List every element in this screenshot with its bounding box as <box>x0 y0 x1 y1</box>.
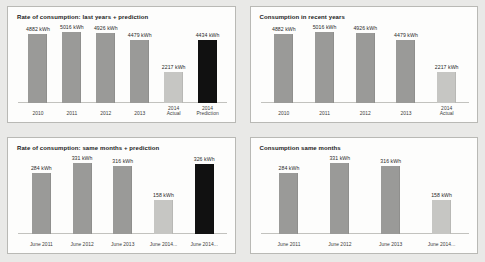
bar-category-label: 2013 <box>386 111 427 117</box>
bar <box>432 200 451 234</box>
bar <box>28 34 47 103</box>
bar-column: 2217 kWh2014 Actual <box>426 23 467 118</box>
bar-column: 4926 kWh2012 <box>89 23 123 118</box>
bar <box>113 166 132 234</box>
bar-value-label: 158 kWh <box>431 193 452 198</box>
bar-column: 4882 kWh2010 <box>21 23 55 118</box>
chart-panel-consumption-same-months: Consumption same months 284 kWhJune 2011… <box>250 137 479 254</box>
bar-category-label: 2014 Prediction <box>191 106 225 117</box>
chart-panel-rate-consumption-same-months: Rate of consumption: same months + predi… <box>7 137 236 254</box>
bar-category-label: 2012 <box>345 111 386 117</box>
bar-column: 284 kWhJune 2011 <box>264 154 315 249</box>
bar-value-label: 284 kWh <box>279 166 300 171</box>
bar <box>164 72 183 103</box>
bar-column: 2217 kWh2014 Actual <box>157 23 191 118</box>
bar <box>396 40 415 103</box>
bar-category-label: 2011 <box>304 111 345 117</box>
bar-category-label: 2010 <box>21 111 55 117</box>
chart-panel-consumption-recent-years: Consumption in recent years 4882 kWh2010… <box>250 6 479 123</box>
chart-panel-slot-1: Rate of consumption: last years + predic… <box>0 0 243 131</box>
bar-value-label: 2217 kWh <box>162 65 186 70</box>
chart-panel-slot-3: Rate of consumption: same months + predi… <box>0 131 243 262</box>
bar-category-label: June 2011 <box>21 242 62 248</box>
chart-plot-area: 4882 kWh20105016 kWh20114926 kWh20124479… <box>258 23 472 118</box>
bar-value-label: 4479 kWh <box>394 33 418 38</box>
bar-value-label: 331 kWh <box>72 156 93 161</box>
bar-column: 331 kWhJune 2012 <box>62 154 103 249</box>
bar-column: 4479 kWh2013 <box>386 23 427 118</box>
chart-plot-area: 284 kWhJune 2011331 kWhJune 2012316 kWhJ… <box>258 154 472 249</box>
bar-value-label: 5016 kWh <box>313 25 337 30</box>
bar <box>195 164 214 234</box>
bar <box>279 173 298 234</box>
bar-value-label: 4882 kWh <box>272 27 296 32</box>
bar <box>330 163 349 234</box>
bar-value-label: 331 kWh <box>329 156 350 161</box>
bar <box>32 173 51 234</box>
bar-value-label: 158 kWh <box>153 193 174 198</box>
bar <box>130 40 149 103</box>
bar-column: 331 kWhJune 2012 <box>314 154 365 249</box>
bar-category-label: 2012 <box>89 111 123 117</box>
bar-category-label: 2013 <box>123 111 157 117</box>
bar-category-label: June 2012 <box>314 242 365 248</box>
bar-column: 4926 kWh2012 <box>345 23 386 118</box>
bar-column: 5016 kWh2011 <box>304 23 345 118</box>
bar-column: 4479 kWh2013 <box>123 23 157 118</box>
chart-panel-slot-2: Consumption in recent years 4882 kWh2010… <box>243 0 485 131</box>
bar-value-label: 4434 kWh <box>196 33 220 38</box>
bar-category-label: June 2014... <box>416 242 467 248</box>
bar-value-label: 4926 kWh <box>94 26 118 31</box>
bar <box>73 163 92 234</box>
bar-category-label: 2014 Actual <box>426 106 467 117</box>
charts-grid: Rate of consumption: last years + predic… <box>0 0 485 262</box>
bar <box>437 72 456 103</box>
bar-value-label: 2217 kWh <box>435 65 459 70</box>
chart-plot-area: 284 kWhJune 2011331 kWhJune 2012316 kWhJ… <box>15 154 229 249</box>
bar <box>356 33 375 103</box>
chart-plot-area: 4882 kWh20105016 kWh20114926 kWh20124479… <box>15 23 229 118</box>
bar-category-label: June 2014... <box>143 242 184 248</box>
bar <box>274 34 293 103</box>
bar-value-label: 4926 kWh <box>353 26 377 31</box>
bar-category-label: 2011 <box>55 111 89 117</box>
bar-column: 4882 kWh2010 <box>264 23 305 118</box>
chart-title: Rate of consumption: same months + predi… <box>17 145 229 152</box>
bar-column: 5016 kWh2011 <box>55 23 89 118</box>
bar-category-label: June 2012 <box>62 242 103 248</box>
bar <box>315 32 334 103</box>
bar <box>96 33 115 103</box>
bar-column: 4434 kWh2014 Prediction <box>191 23 225 118</box>
bar-category-label: June 2013 <box>365 242 416 248</box>
bar-category-label: 2010 <box>264 111 305 117</box>
bar-column: 158 kWhJune 2014... <box>416 154 467 249</box>
chart-title: Consumption same months <box>260 145 472 152</box>
bar-category-label: June 2013 <box>102 242 143 248</box>
bar <box>154 200 173 234</box>
bar <box>62 32 81 103</box>
chart-title: Consumption in recent years <box>260 14 472 21</box>
bar-value-label: 316 kWh <box>380 159 401 164</box>
bar-value-label: 4882 kWh <box>26 27 50 32</box>
bar-value-label: 316 kWh <box>112 159 133 164</box>
bar-value-label: 4479 kWh <box>128 33 152 38</box>
bar <box>381 166 400 234</box>
chart-panel-rate-consumption-last-years: Rate of consumption: last years + predic… <box>7 6 236 123</box>
bar-category-label: June 2014... <box>184 242 225 248</box>
chart-panel-slot-4: Consumption same months 284 kWhJune 2011… <box>243 131 485 262</box>
bar <box>198 40 217 103</box>
bar-category-label: June 2011 <box>264 242 315 248</box>
chart-title: Rate of consumption: last years + predic… <box>17 14 229 21</box>
bar-value-label: 5016 kWh <box>60 25 84 30</box>
bar-column: 158 kWhJune 2014... <box>143 154 184 249</box>
bar-value-label: 326 kWh <box>194 157 215 162</box>
bar-column: 316 kWhJune 2013 <box>102 154 143 249</box>
bar-value-label: 284 kWh <box>31 166 52 171</box>
bar-column: 284 kWhJune 2011 <box>21 154 62 249</box>
bar-column: 326 kWhJune 2014... <box>184 154 225 249</box>
bar-column: 316 kWhJune 2013 <box>365 154 416 249</box>
bar-category-label: 2014 Actual <box>157 106 191 117</box>
